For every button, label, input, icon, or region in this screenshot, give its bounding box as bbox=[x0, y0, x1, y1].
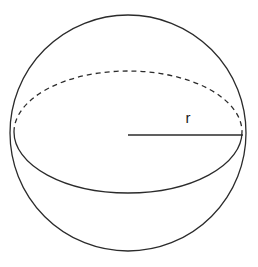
sphere-figure-canvas: r bbox=[0, 0, 258, 267]
equator-back-dashed-arc bbox=[14, 71, 242, 132]
sphere-diagram: r bbox=[0, 0, 258, 267]
radius-label: r bbox=[186, 109, 191, 126]
sphere-outline-circle bbox=[10, 15, 246, 251]
equator-front-solid-arc bbox=[14, 132, 242, 193]
